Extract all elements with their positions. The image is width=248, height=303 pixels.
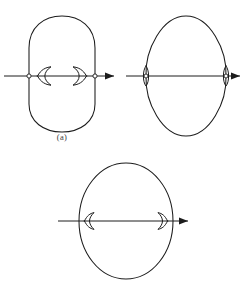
- panel-a-left-node-dot: [27, 74, 31, 78]
- panel-b-drawing: [124, 4, 248, 152]
- panel-b-left-node-dot: [144, 74, 148, 78]
- panel-b-right-node-dot: [224, 74, 228, 78]
- panel-a-axis-arrowhead: [105, 73, 114, 80]
- panel-b-lower-lobe: [146, 76, 226, 136]
- figure-panel-b: (b): [124, 4, 248, 152]
- panel-c-axis-arrowhead: [179, 218, 188, 225]
- figure-plate: (a) (b): [0, 0, 248, 303]
- figure-panel-c: (c): [56, 156, 196, 303]
- panel-a-right-node-dot: [93, 74, 97, 78]
- panel-a-drawing: [0, 4, 124, 152]
- panel-b-upper-lobe: [146, 16, 226, 76]
- panel-b-axis-arrowhead: [231, 73, 240, 80]
- panel-c-drawing: [56, 156, 196, 303]
- figure-panel-a: (a): [0, 4, 124, 152]
- panel-a-caption: (a): [0, 132, 124, 142]
